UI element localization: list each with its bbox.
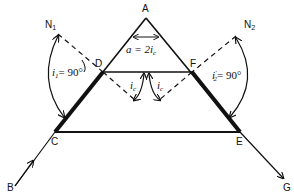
label-N1: N1 <box>45 19 56 31</box>
prism-diagram: A D F C E B G N1 N2 a = 2ic i1= 90° i′2=… <box>0 0 294 194</box>
label-G: G <box>283 182 291 193</box>
label-C: C <box>51 136 58 147</box>
ic-left-label: ic <box>130 79 137 93</box>
label-A: A <box>142 3 149 14</box>
apex-angle-label: a = 2ic <box>126 43 157 57</box>
ray-EG <box>240 132 283 178</box>
label-F: F <box>190 58 196 69</box>
label-D: D <box>95 58 102 69</box>
ray-BC-arrow <box>15 161 33 186</box>
i2-label: i′2= 90° <box>212 69 241 83</box>
label-B: B <box>7 182 14 193</box>
label-N2: N2 <box>244 19 255 31</box>
normal-N2-F <box>192 36 236 72</box>
thick-segment-DC <box>55 72 103 132</box>
ic-right-label: ic <box>157 79 164 93</box>
label-E: E <box>236 136 243 147</box>
i1-label: i1= 90° <box>52 66 83 80</box>
